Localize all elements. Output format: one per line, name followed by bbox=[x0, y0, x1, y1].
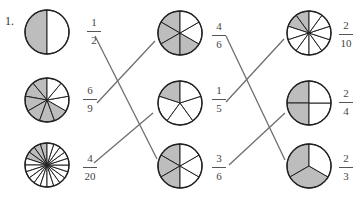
denominator: 5 bbox=[211, 103, 227, 114]
shaded-slice bbox=[25, 10, 47, 54]
denominator: 10 bbox=[338, 38, 354, 49]
denominator: 20 bbox=[82, 171, 98, 182]
fraction-circle bbox=[158, 144, 202, 188]
fraction-bar bbox=[87, 31, 101, 32]
fraction-label: 69 bbox=[82, 85, 98, 114]
fraction-bar bbox=[212, 35, 226, 36]
fraction-bar bbox=[339, 34, 353, 35]
fraction-circle bbox=[25, 143, 69, 187]
fraction-circle bbox=[287, 81, 331, 125]
fraction-bar bbox=[212, 167, 226, 168]
fraction-circle bbox=[287, 11, 331, 55]
fraction-matching-exercise: 1. 12694204615362102423 bbox=[0, 0, 360, 199]
fraction-circle bbox=[25, 10, 69, 54]
fraction-label: 210 bbox=[338, 20, 354, 49]
denominator: 2 bbox=[86, 35, 102, 46]
fraction-label: 12 bbox=[86, 17, 102, 46]
unshaded-slice bbox=[47, 10, 69, 54]
numerator: 3 bbox=[211, 153, 227, 164]
numerator: 4 bbox=[82, 153, 98, 164]
fraction-label: 420 bbox=[82, 153, 98, 182]
fraction-bar bbox=[83, 99, 97, 100]
denominator: 6 bbox=[211, 39, 227, 50]
fraction-label: 23 bbox=[338, 153, 354, 182]
match-line bbox=[226, 39, 284, 102]
numerator: 1 bbox=[211, 85, 227, 96]
fraction-label: 36 bbox=[211, 153, 227, 182]
denominator: 6 bbox=[211, 171, 227, 182]
denominator: 9 bbox=[82, 103, 98, 114]
match-line bbox=[94, 113, 153, 163]
fraction-bar bbox=[339, 167, 353, 168]
denominator: 3 bbox=[338, 171, 354, 182]
numerator: 4 bbox=[211, 21, 227, 32]
numerator: 2 bbox=[338, 153, 354, 164]
fraction-bar bbox=[339, 102, 353, 103]
fraction-bar bbox=[212, 99, 226, 100]
diagram-canvas bbox=[0, 0, 360, 199]
fraction-label: 15 bbox=[211, 85, 227, 114]
numerator: 1 bbox=[86, 17, 102, 28]
fraction-label: 46 bbox=[211, 21, 227, 50]
fraction-circle bbox=[158, 11, 202, 55]
match-line bbox=[97, 41, 155, 103]
fraction-bar bbox=[83, 167, 97, 168]
numerator: 2 bbox=[338, 88, 354, 99]
fraction-circle bbox=[25, 78, 69, 122]
match-line bbox=[226, 36, 285, 160]
fraction-circle bbox=[158, 81, 202, 125]
match-line bbox=[95, 36, 157, 159]
numerator: 6 bbox=[82, 85, 98, 96]
fraction-circle bbox=[287, 144, 331, 188]
numerator: 2 bbox=[338, 20, 354, 31]
fraction-label: 24 bbox=[338, 88, 354, 117]
match-line bbox=[229, 113, 285, 165]
denominator: 4 bbox=[338, 106, 354, 117]
